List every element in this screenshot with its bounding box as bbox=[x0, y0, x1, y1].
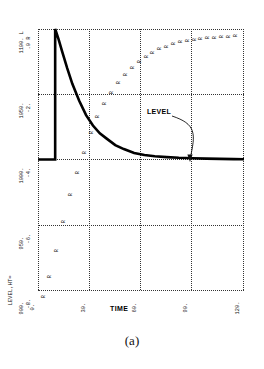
series-R-marker: R bbox=[55, 249, 60, 252]
series-R-marker: R bbox=[110, 91, 115, 94]
series-R-marker: R bbox=[179, 41, 184, 44]
figure-caption: (a) bbox=[0, 333, 264, 349]
series-R-marker: R bbox=[172, 42, 177, 45]
series-R-marker: R bbox=[151, 51, 156, 54]
series-R-marker: R bbox=[62, 220, 67, 223]
series-R-marker: R bbox=[124, 73, 129, 76]
series-R-marker: R bbox=[76, 171, 81, 174]
series-R-marker: R bbox=[227, 35, 232, 38]
series-R-marker: R bbox=[137, 60, 142, 63]
series-R-marker: R bbox=[234, 34, 239, 37]
series-R-marker: R bbox=[213, 36, 218, 39]
series-R-markers: RRRRRRRRRRRRRRRRRRRRRRRRRRRRR bbox=[0, 0, 264, 369]
series-R-marker: R bbox=[206, 36, 211, 39]
series-R-marker: R bbox=[185, 39, 190, 42]
series-R-marker: R bbox=[82, 151, 87, 154]
series-R-marker: R bbox=[69, 194, 74, 197]
figure-panel: 1100. L 1050. 1000. 950. 900. .0 R -2. -… bbox=[0, 0, 264, 369]
series-R-marker: R bbox=[199, 37, 204, 40]
series-R-marker: R bbox=[117, 81, 122, 84]
series-R-marker: R bbox=[158, 47, 163, 50]
series-R-marker: R bbox=[165, 45, 170, 48]
series-R-marker: R bbox=[131, 66, 136, 69]
series-R-marker: R bbox=[192, 38, 197, 41]
series-R-marker: R bbox=[41, 295, 46, 298]
series-R-marker: R bbox=[220, 35, 225, 38]
series-R-marker: R bbox=[48, 275, 53, 278]
series-R-marker: R bbox=[103, 102, 108, 105]
series-R-marker: R bbox=[96, 115, 101, 118]
series-R-marker: R bbox=[144, 55, 149, 58]
series-R-marker: R bbox=[89, 132, 94, 135]
level-annotation-label: LEVEL bbox=[147, 108, 171, 115]
